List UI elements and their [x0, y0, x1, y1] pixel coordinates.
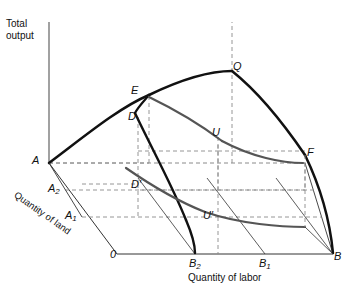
diagram-canvas	[0, 0, 349, 292]
point-label-D: D	[128, 110, 136, 123]
point-label-A1: A1	[65, 209, 77, 223]
axis-label-total-output-line1: Total	[6, 18, 27, 30]
depth-connector-B2	[138, 178, 195, 254]
ridge-curve-lower-right	[205, 212, 305, 227]
point-label-B2: B2	[189, 257, 201, 271]
depth-connector-B	[276, 178, 333, 254]
surface-curve-F-to-B	[305, 155, 333, 253]
point-label-B1: B1	[259, 257, 271, 271]
surface-curve-Q-to-F	[232, 71, 305, 155]
point-label-Q: Q	[233, 60, 242, 73]
point-label-Dprime: D′	[131, 178, 141, 191]
point-label-B: B	[334, 250, 341, 263]
point-label-Uprime: U′	[203, 209, 213, 222]
point-label-A: A	[32, 154, 39, 167]
land-axis-line	[49, 163, 117, 254]
surface-curve-E-to-Q	[149, 71, 232, 95]
point-label-F: F	[307, 146, 314, 159]
point-label-A2: A2	[48, 182, 60, 196]
point-label-U: U	[212, 126, 220, 139]
point-label-E: E	[131, 84, 138, 97]
axis-label-total-output-line2: output	[6, 30, 34, 42]
surface-curve-A-to-E	[49, 95, 149, 163]
production-surface-figure: Total output Quantity of land Quantity o…	[0, 0, 349, 292]
surface-curve-D-descend	[135, 113, 186, 220]
point-label-origin: 0	[110, 248, 116, 261]
axis-label-quantity-of-labor: Quantity of labor	[188, 272, 261, 284]
ridge-curve-U-to-F	[222, 141, 303, 163]
